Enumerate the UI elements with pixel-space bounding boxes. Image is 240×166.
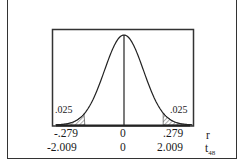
r-tick-left: -.279 — [54, 127, 78, 139]
t-tick-left: -2.009 — [47, 141, 77, 153]
t-tick-mid: 0 — [120, 141, 126, 153]
left-tail-label: .025 — [55, 104, 73, 116]
r-axis-label: r — [206, 129, 210, 141]
t-tick-right: 2.009 — [157, 141, 183, 153]
r-tick-mid: 0 — [120, 127, 126, 139]
r-tick-right: .279 — [163, 127, 183, 139]
right-tail-label: .025 — [170, 104, 188, 116]
t-axis-label: t48 — [205, 142, 215, 159]
